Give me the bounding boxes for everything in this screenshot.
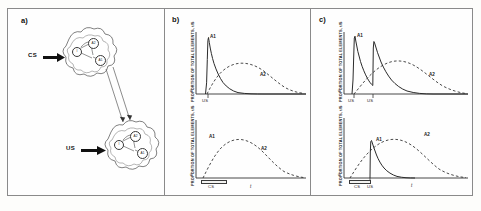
cs-arrow-label: CS (28, 52, 37, 58)
us-node-i: I (114, 140, 124, 150)
chart-b-bottom-xtick-cs: CS (208, 184, 214, 189)
chart-c-bottom-xtick-cs: CS (354, 184, 360, 189)
chart-b-bottom-label-a2: A2 (261, 146, 267, 151)
chart-b-top-label-a1: A1 (210, 34, 216, 39)
chart-b-bottom: PROPORTION OF TOTAL ELEMENTS, t/S 0 CS A… (164, 112, 310, 196)
chart-b-top-y-zero: 0 (190, 88, 192, 93)
chart-c-bottom: PROPORTION OF TOTAL ELEMENTS, t/S 0 CS U… (310, 112, 473, 196)
chart-b-bottom-xlabel: t (250, 184, 251, 189)
panel-c-label: c) (319, 15, 326, 24)
panel-a-diagram (7, 8, 164, 196)
cs-node-a1: A1 (95, 55, 106, 66)
cs-node-a2: A2 (88, 38, 99, 49)
us-input-arrow (81, 146, 106, 155)
panel-b-label: b) (172, 15, 179, 24)
chart-c-bottom-xlabel: t (411, 183, 412, 188)
chart-c-top-xtick-us-1: US (348, 98, 354, 103)
chart-b-bottom-label-a1: A1 (209, 134, 215, 139)
chart-c-top-label-a2: A2 (429, 72, 435, 77)
us-node-a2: A2 (130, 131, 141, 142)
us-arrow-label: US (66, 145, 75, 151)
us-node-a1: A1 (137, 148, 148, 159)
chart-c-top-label-a1: A1 (357, 33, 363, 38)
figure-root: a) (0, 0, 481, 211)
cs-node-i: I (72, 47, 82, 57)
panel-a: a) (7, 8, 164, 196)
cluster-connection-arrows (106, 67, 132, 122)
cs-input-arrow (43, 53, 65, 62)
chart-b-top-label-a2: A2 (260, 72, 266, 77)
panel-b: b) PROPORTION OF TOTAL ELEMENTS, t/S 0 U… (164, 8, 310, 196)
chart-c-bottom-xtick-us: US (367, 184, 373, 189)
chart-b-bottom-y-zero: 0 (190, 172, 192, 177)
chart-c-bottom-label-a2: A2 (424, 132, 430, 137)
chart-b-top-xtick-us: US (202, 98, 208, 103)
chart-c-bottom-y-zero: 0 (338, 172, 340, 177)
chart-c-top: PROPORTION OF TOTAL ELEMENTS, t/S 0 US U… (310, 24, 473, 110)
panel-c: c) PROPORTION OF TOTAL ELEMENTS, t/S 0 U… (310, 8, 473, 196)
chart-c-bottom-label-a1: A1 (376, 137, 382, 142)
chart-c-top-y-zero: 0 (338, 88, 340, 93)
chart-c-top-xtick-us-2: US (367, 98, 373, 103)
chart-b-top: PROPORTION OF TOTAL ELEMENTS, t/S 0 US A… (164, 24, 310, 110)
